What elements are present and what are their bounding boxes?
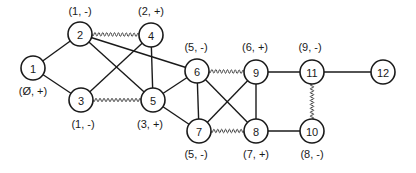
node-10-annotation: (8, -)	[300, 148, 323, 160]
node-5: 5	[141, 88, 165, 112]
edge-3-5-wavy	[93, 98, 141, 102]
node-9-annotation: (6, +)	[242, 41, 268, 53]
node-id-label: 10	[306, 126, 318, 138]
node-5-annotation: (3, +)	[137, 118, 163, 130]
node-6-annotation: (5, -)	[184, 41, 207, 53]
node-1: 1	[21, 56, 45, 80]
node-12: 12	[371, 60, 395, 84]
node-6: 6	[185, 59, 209, 83]
edge-6-9-wavy	[209, 69, 244, 73]
node-id-label: 8	[253, 126, 259, 138]
node-id-label: 2	[77, 29, 83, 41]
graph-diagram: 123456789101112 (Ø, +)(1, -)(1, -)(2, +)…	[0, 0, 416, 173]
node-3-annotation: (1, -)	[71, 118, 94, 130]
node-11: 11	[300, 60, 324, 84]
node-11-annotation: (9, -)	[298, 41, 321, 53]
edge-11-10-wavy	[310, 84, 314, 119]
node-9: 9	[244, 60, 268, 84]
node-id-label: 4	[148, 30, 154, 42]
node-id-label: 9	[253, 67, 259, 79]
node-id-label: 3	[78, 95, 84, 107]
node-8: 8	[244, 119, 268, 143]
node-id-label: 11	[306, 67, 317, 79]
node-8-annotation: (7, +)	[243, 148, 269, 160]
node-1-annotation: (Ø, +)	[19, 85, 47, 97]
node-4-annotation: (2, +)	[138, 5, 164, 17]
edge-7-8-wavy	[211, 129, 244, 133]
node-id-label: 1	[30, 63, 36, 75]
node-7: 7	[187, 119, 211, 143]
node-id-label: 7	[196, 126, 202, 138]
node-4: 4	[139, 23, 163, 47]
labels-layer: (Ø, +)(1, -)(1, -)(2, +)(3, +)(5, -)(5, …	[19, 5, 324, 160]
node-3: 3	[69, 88, 93, 112]
node-10: 10	[300, 119, 324, 143]
node-id-label: 5	[150, 95, 156, 107]
node-7-annotation: (5, -)	[184, 148, 207, 160]
node-2: 2	[68, 22, 92, 46]
node-id-label: 6	[194, 66, 200, 78]
node-2-annotation: (1, -)	[68, 5, 91, 17]
node-id-label: 12	[377, 67, 389, 79]
edge-2-6	[80, 34, 197, 71]
edge-2-4-wavy	[92, 32, 139, 36]
